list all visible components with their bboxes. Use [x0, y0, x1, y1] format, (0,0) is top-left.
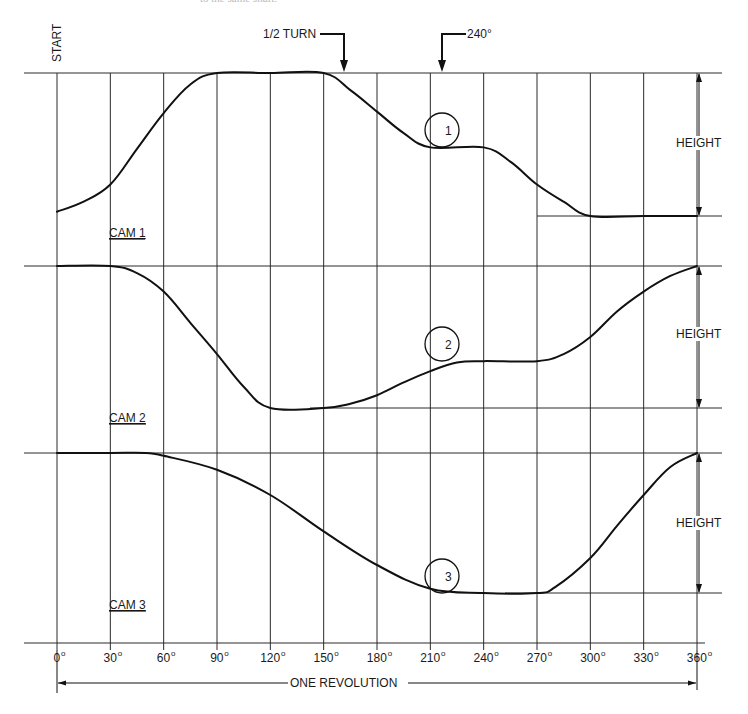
degree-symbol: o	[441, 649, 446, 658]
degree-symbol: o	[61, 649, 66, 658]
tick-label-150: 150	[313, 651, 333, 665]
degree-symbol: o	[224, 649, 229, 658]
tick-label-240: 240	[473, 651, 493, 665]
degree-symbol: o	[494, 649, 499, 658]
cam2-label: CAM 2	[109, 411, 146, 425]
tick-label-90: 90	[210, 651, 224, 665]
cam1-label: CAM 1	[109, 226, 146, 240]
degree-symbol: o	[171, 649, 176, 658]
arrow-left-icon	[58, 681, 66, 686]
half-turn-label: 1/2 TURN	[263, 27, 316, 41]
follower-1-number: 1	[445, 124, 452, 138]
half-turn-arrow-icon	[320, 34, 344, 62]
tick-label-180: 180	[367, 651, 387, 665]
height-label-cam2: HEIGHT	[676, 327, 722, 341]
deg240-arrow-icon	[442, 34, 466, 62]
degree-symbol: o	[548, 649, 553, 658]
half-turn-arrowhead-icon	[340, 60, 348, 72]
arrow-right-icon	[688, 681, 696, 686]
deg240-label: 240°	[467, 27, 492, 41]
tick-label-210: 210	[420, 651, 440, 665]
height-label-cam1: HEIGHT	[676, 136, 722, 150]
height-dimension-cam2: HEIGHT	[676, 266, 722, 408]
deg240-arrowhead-icon	[438, 60, 446, 72]
height-label-cam3: HEIGHT	[676, 516, 722, 530]
tick-label-300: 300	[580, 651, 600, 665]
tick-label-60: 60	[157, 651, 171, 665]
tick-label-30: 30	[104, 651, 118, 665]
degree-symbol: o	[281, 649, 286, 658]
x-axis-tick-labels: 0o30o60o90o120o150o180o210o240o270o300o3…	[54, 649, 713, 665]
height-dimension-cam3: HEIGHT	[676, 453, 722, 593]
tick-label-270: 270	[527, 651, 547, 665]
tick-label-330: 330	[633, 651, 653, 665]
height-dimension-cam1: HEIGHT	[676, 73, 722, 216]
follower-3-number: 3	[445, 570, 452, 584]
tick-label-120: 120	[260, 651, 280, 665]
degree-symbol: o	[388, 649, 393, 658]
degree-symbol: o	[601, 649, 606, 658]
one-revolution-label: ONE REVOLUTION	[290, 676, 397, 690]
cam3-label: CAM 3	[109, 598, 146, 612]
degree-symbol: o	[334, 649, 339, 658]
degree-symbol: o	[118, 649, 123, 658]
degree-symbol: o	[708, 649, 713, 658]
follower-2-number: 2	[445, 338, 452, 352]
cam-displacement-diagram: START 1/2 TURN 240° HEIGHT HEIGHT HEIGHT…	[0, 0, 748, 714]
degree-symbol: o	[654, 649, 659, 658]
start-label: START	[50, 23, 64, 62]
